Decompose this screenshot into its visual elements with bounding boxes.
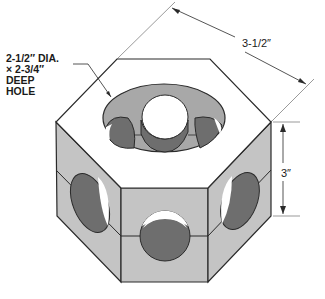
front-face bbox=[121, 188, 208, 282]
diagram-canvas: 2-1/2″ DIA. × 2-3/4″ DEEP HOLE 3-1/2″ 3″ bbox=[0, 0, 325, 299]
hole-callout-label: 2-1/2″ DIA. × 2-3/4″ DEEP HOLE bbox=[6, 53, 59, 97]
width-dimension-label: 3-1/2″ bbox=[242, 37, 271, 49]
callout-line-4: HOLE bbox=[6, 86, 59, 97]
height-dimension-label: 3″ bbox=[281, 167, 291, 179]
hex-block-drawing bbox=[0, 0, 325, 299]
